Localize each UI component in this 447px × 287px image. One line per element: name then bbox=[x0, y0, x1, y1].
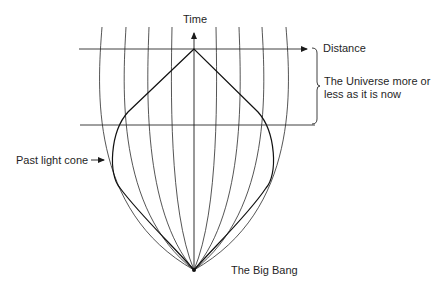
big-bang-label: The Big Bang bbox=[231, 264, 298, 277]
universe-now-label-line1: The Universe more or bbox=[324, 75, 430, 88]
universe-now-brace bbox=[312, 48, 320, 124]
time-axis-label: Time bbox=[183, 13, 207, 26]
universe-now-label: The Universe more or less as it is now bbox=[324, 75, 430, 101]
past-light-cone-label: Past light cone bbox=[16, 154, 88, 167]
distance-axis-label: Distance bbox=[323, 42, 366, 55]
big-bang-point bbox=[192, 268, 196, 272]
galaxy-worldline bbox=[148, 27, 194, 270]
past-light-cone bbox=[112, 49, 273, 270]
universe-now-label-line2: less as it is now bbox=[324, 88, 430, 101]
galaxy-worldline bbox=[171, 27, 194, 270]
spacetime-diagram bbox=[0, 0, 447, 287]
galaxy-worldline bbox=[194, 27, 240, 270]
galaxy-worldline bbox=[194, 27, 217, 270]
